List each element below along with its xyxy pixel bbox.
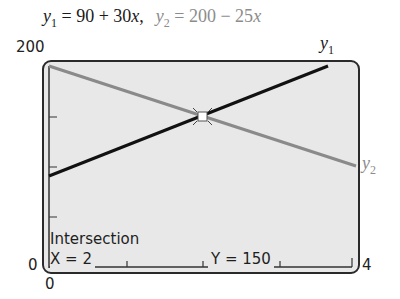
curve-y1-var: y — [320, 33, 328, 53]
equation-y1: y1 = 90 + 30x, — [43, 6, 144, 26]
intersection-label: Intersection — [50, 230, 139, 248]
y2-x: x — [253, 6, 261, 26]
y2-var: y — [156, 6, 164, 26]
curve-label-y1: y1 — [320, 33, 334, 58]
xmin-label: 0 — [45, 275, 55, 293]
ymin-label: 0 — [28, 256, 38, 274]
curve-y1-sub: 1 — [328, 43, 334, 57]
equation-y2: y2 = 200 − 25x — [156, 6, 261, 26]
line-y1 — [49, 66, 328, 176]
ymax-label: 200 — [16, 38, 45, 56]
curve-label-y2: y2 — [362, 153, 376, 178]
calculator-screen: Intersection X = 2 Y = 150 — [42, 60, 360, 274]
y1-expr: = 90 + 30 — [57, 6, 131, 26]
chart-title: y1 = 90 + 30x,y2 = 200 − 25x — [43, 6, 261, 31]
x-readout: X = 2 — [50, 250, 95, 268]
y1-comma: , — [139, 6, 144, 26]
curve-y2-sub: 2 — [370, 163, 376, 177]
y1-var: y — [43, 6, 51, 26]
y2-expr: = 200 − 25 — [170, 6, 253, 26]
y-readout: Y = 150 — [208, 250, 274, 268]
curve-y2-var: y — [362, 153, 370, 173]
xmax-label: 4 — [362, 256, 372, 274]
